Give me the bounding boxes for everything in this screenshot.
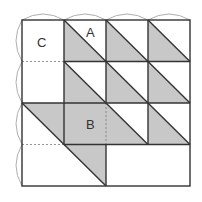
tiling-diagram: C A B: [0, 0, 202, 202]
left-arcs: [16, 20, 22, 186]
label-c: C: [37, 35, 46, 50]
label-a: A: [86, 25, 95, 40]
label-b: B: [86, 117, 95, 132]
top-arcs: [22, 14, 190, 20]
